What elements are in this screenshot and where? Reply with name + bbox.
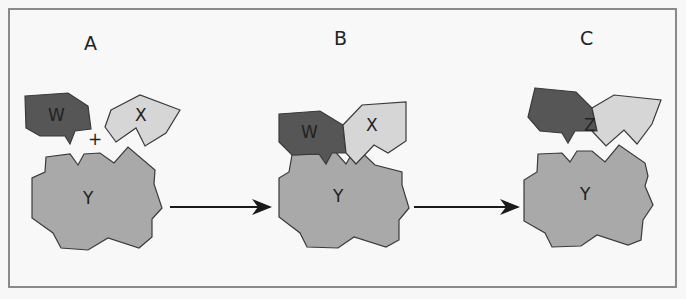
panel-c: C Z Y	[524, 27, 661, 247]
panel-c-label: C	[580, 27, 593, 49]
panel-b: B Y W X	[279, 27, 409, 248]
panel-b-label: B	[334, 27, 347, 49]
molecule-y-label: Y	[579, 184, 591, 204]
molecule-y	[279, 147, 409, 248]
molecule-y-label: Y	[332, 186, 344, 206]
molecule-w-label: W	[48, 105, 65, 125]
diagram-canvas: A W X + Y B Y W X C Z	[0, 0, 686, 299]
molecule-x-label: X	[135, 105, 147, 125]
product-z-light-part	[592, 95, 661, 146]
product-z-label: Z	[584, 115, 596, 135]
panel-a: A W X + Y	[25, 32, 180, 250]
molecule-y	[32, 147, 162, 250]
molecule-x-label: X	[366, 115, 378, 135]
plus-sign: +	[88, 129, 102, 149]
molecule-y-label: Y	[82, 188, 94, 208]
panel-a-label: A	[84, 32, 97, 54]
molecule-w-label: W	[301, 122, 318, 142]
